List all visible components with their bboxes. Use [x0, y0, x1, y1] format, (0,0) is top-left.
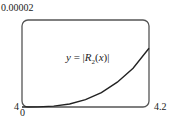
x-min-label: 4	[14, 102, 19, 112]
y-min-label: 0	[20, 108, 25, 118]
x-max-label: 4.2	[154, 102, 167, 112]
curve-label: y = |R2(x)|	[66, 52, 109, 67]
curve-label-sub: 2	[92, 58, 96, 66]
curve-label-func: R	[85, 51, 92, 63]
curve-label-y: y	[66, 51, 71, 63]
y-max-label: 0.00002	[1, 3, 34, 13]
